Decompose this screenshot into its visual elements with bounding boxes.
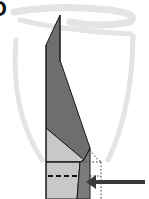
strip-bottom-left [46,162,80,199]
push-arrow-icon [86,175,145,189]
diagram-canvas: D [0,0,149,199]
paper-strip [46,15,90,199]
fold-diagram [0,0,149,199]
step-label: D [0,0,7,20]
